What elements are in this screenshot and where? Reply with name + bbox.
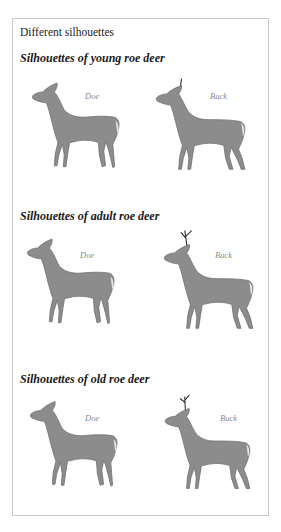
old-buck-label: Buck: [220, 413, 237, 423]
old-doe-label: Doe: [85, 413, 99, 423]
adult-doe-label: Doe: [80, 250, 94, 260]
old-doe-silhouette: [28, 398, 118, 495]
figure-title: Different silhouettes: [20, 26, 114, 38]
adult-doe-silhouette: [25, 236, 115, 332]
young-doe-silhouette: [30, 82, 120, 174]
adult-buck-silhouette: [160, 238, 252, 334]
section-heading-old: Silhouettes of old roe deer: [20, 372, 149, 387]
section-heading-adult: Silhouettes of adult roe deer: [20, 209, 159, 224]
adult-buck-label: Buck: [215, 250, 232, 260]
section-heading-young: Silhouettes of young roe deer: [20, 51, 165, 66]
young-doe-label: Doe: [85, 91, 99, 101]
young-buck-label: Buck: [210, 91, 227, 101]
young-buck-silhouette: [152, 80, 244, 174]
